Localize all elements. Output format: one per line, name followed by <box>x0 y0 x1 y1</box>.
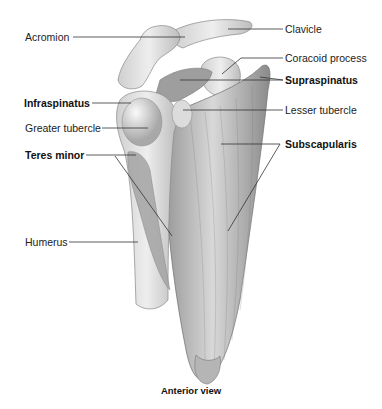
label-coracoid-process: Coracoid process <box>285 52 367 64</box>
label-clavicle: Clavicle <box>285 23 322 35</box>
label-greater-tubercle: Greater tubercle <box>25 122 101 134</box>
lesser-tubercle-shape <box>172 100 192 128</box>
label-teres-minor: Teres minor <box>25 149 84 161</box>
label-supraspinatus: Supraspinatus <box>285 74 358 86</box>
anatomy-figure: Acromion Infraspinatus Greater tubercle … <box>0 0 382 409</box>
label-acromion: Acromion <box>25 31 69 43</box>
clavicle-shape <box>173 20 252 48</box>
figure-caption: Anterior view <box>0 385 382 396</box>
label-lesser-tubercle: Lesser tubercle <box>285 104 357 116</box>
greater-tubercle-shape <box>122 98 162 146</box>
label-infraspinatus: Infraspinatus <box>24 97 90 109</box>
label-subscapularis: Subscapularis <box>285 138 357 150</box>
label-humerus: Humerus <box>25 236 68 248</box>
